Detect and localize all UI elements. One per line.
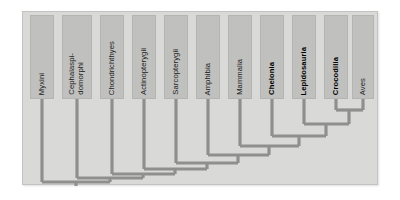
taxon-label-chelonia: Chelonia	[260, 15, 284, 99]
taxon-label-text: Cephalaspi- domorphi	[68, 53, 85, 95]
taxon-label-myxini: Myxini	[30, 15, 54, 99]
taxon-label-text: Actinopterygii	[140, 48, 149, 95]
taxon-label-text: Aves	[359, 78, 368, 95]
taxon-label-layer: MyxiniCephalaspi- domorphiChondrichthyes…	[23, 12, 379, 186]
diagram-panel: MyxiniCephalaspi- domorphiChondrichthyes…	[22, 11, 378, 185]
taxon-label-aves: Aves	[352, 15, 374, 99]
taxon-label-text: Myxini	[38, 73, 47, 95]
taxon-label-text: Amphibia	[204, 63, 213, 95]
taxon-label-cephalaspidomorphi: Cephalaspi- domorphi	[62, 15, 92, 99]
taxon-label-text: Mammalia	[236, 59, 245, 95]
taxon-label-text: Sarcopterygii	[172, 49, 181, 95]
taxon-label-actinopterygii: Actinopterygii	[132, 15, 156, 99]
taxon-label-text: Chondrichthyes	[108, 41, 117, 95]
taxon-label-mammalia: Mammalia	[228, 15, 252, 99]
taxon-label-text: Lepidosauria	[300, 47, 309, 95]
taxon-label-lepidosauria: Lepidosauria	[292, 15, 316, 99]
taxon-label-text: Crocodilia	[332, 57, 341, 95]
phylogenetic-tree-figure: MyxiniCephalaspi- domorphiChondrichthyes…	[0, 0, 400, 200]
taxon-label-crocodilia: Crocodilia	[324, 15, 348, 99]
taxon-label-chondrichthyes: Chondrichthyes	[100, 15, 124, 99]
taxon-label-text: Chelonia	[268, 62, 277, 95]
taxon-label-amphibia: Amphibia	[196, 15, 220, 99]
taxon-label-sarcopterygii: Sarcopterygii	[164, 15, 188, 99]
